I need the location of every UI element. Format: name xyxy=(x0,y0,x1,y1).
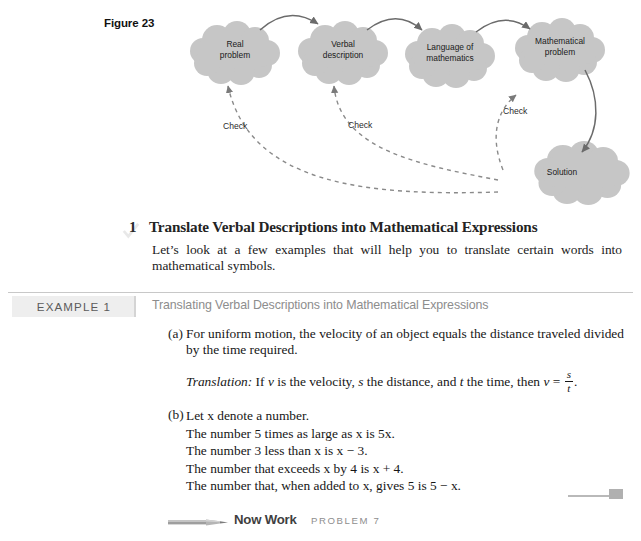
item-b-line-3: The number that exceeds x by 4 is x + 4. xyxy=(186,460,626,477)
translation-text-3: the distance, and xyxy=(367,374,457,389)
now-work-problem-reference: PROBLEM 7 xyxy=(311,515,380,526)
arrow-real-to-verbal xyxy=(260,16,318,30)
check-label-2: Check xyxy=(348,120,373,130)
cloud-language-of-mathematics: Language of mathematics xyxy=(405,24,495,88)
fraction-denominator: t xyxy=(565,383,573,394)
item-marker-a: (a) xyxy=(168,326,183,342)
objective-title: Translate Verbal Descriptions into Mathe… xyxy=(149,218,537,236)
example-title: Translating Verbal Descriptions into Mat… xyxy=(152,298,488,312)
fraction-numerator: s xyxy=(565,369,573,380)
example-header: EXAMPLE 1 Translating Verbal Description… xyxy=(0,292,641,322)
example-item-a: (a) For uniform motion, the velocity of … xyxy=(0,326,641,394)
example-divider-rule xyxy=(8,292,633,293)
example-tag-box: EXAMPLE 1 xyxy=(12,296,136,317)
example-item-b: (b) Let x denote a number. The number 5 … xyxy=(0,407,641,494)
item-marker-b: (b) xyxy=(168,407,184,423)
example-tag-label: EXAMPLE 1 xyxy=(12,300,136,313)
check-arrow-to-real xyxy=(228,86,498,193)
cloud-verbal-description: Verbal description xyxy=(298,21,388,85)
check-label-1: Check xyxy=(223,121,248,131)
cloud-label-line2: problem xyxy=(545,47,575,57)
figure-23-diagram: Figure 23 xyxy=(0,0,641,212)
translation-text-2: is the velocity, xyxy=(277,374,355,389)
item-a-text: For uniform motion, the velocity of an o… xyxy=(186,326,624,358)
cloud-label-line1: Solution xyxy=(547,167,578,177)
item-b-line-2: The number 3 less than x is x − 3. xyxy=(186,442,626,459)
check-label-3: Check xyxy=(503,106,528,116)
cloud-solution: Solution xyxy=(534,141,629,205)
translation-text-4: the time, then xyxy=(467,374,540,389)
arrow-mathproblem-to-solution xyxy=(582,70,596,152)
objective-number: 1 xyxy=(129,219,137,236)
now-work-label: Now Work xyxy=(234,512,297,527)
cloud-label-line1: Mathematical xyxy=(535,36,585,46)
modeling-process-diagram: Real problem Verbal description Language… xyxy=(0,0,641,212)
check-arrow-to-verbal xyxy=(334,86,498,180)
example-body: (a) For uniform motion, the velocity of … xyxy=(0,326,641,494)
item-b-lead: Let x denote a number. xyxy=(186,407,626,424)
item-b-line-1: The number 5 times as large as x is 5x. xyxy=(186,425,626,442)
arrow-language-to-mathproblem xyxy=(476,20,530,32)
cloud-label-line1: Language of xyxy=(427,42,474,52)
cloud-label-line2: problem xyxy=(220,50,250,60)
translation-text-1: If xyxy=(256,374,265,389)
cloud-label-line2: mathematics xyxy=(426,53,473,63)
objective-body-text: Let’s look at a few examples that will h… xyxy=(152,242,622,273)
item-a-translation: Translation: If v is the velocity, s the… xyxy=(186,369,626,395)
page-edge-block xyxy=(609,489,623,499)
fraction-s-over-t: st xyxy=(565,369,573,395)
item-b-line-4: The number that, when added to x, gives … xyxy=(186,477,626,494)
cloud-label-line2: description xyxy=(323,50,364,60)
cloud-label-line1: Verbal xyxy=(331,39,355,49)
translation-label: Translation: xyxy=(186,374,252,389)
equation-period: . xyxy=(574,374,577,389)
cloud-label-line1: Real xyxy=(226,39,243,49)
arrow-verbal-to-language xyxy=(367,19,422,30)
pencil-icon xyxy=(168,516,230,528)
cloud-real-problem: Real problem xyxy=(190,21,280,85)
